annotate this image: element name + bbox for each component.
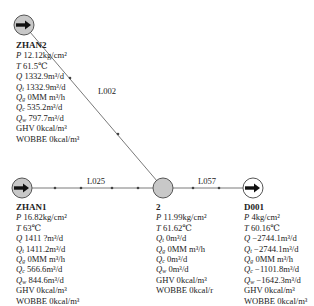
- node-property-row: Qt 0m³/d: [156, 233, 213, 243]
- property-value: 844.6m³/d: [28, 275, 63, 285]
- node-property-row: Qc −1101.8m³/d: [244, 264, 307, 274]
- node-info-d001: D001 P 4kg/cm²T 60.16℃Q −2744.1m³/dQt −2…: [244, 202, 307, 306]
- property-value: 0MM m³/h: [27, 92, 65, 102]
- property-value: WOBBE 0kcal/m³: [244, 296, 307, 306]
- property-value: 1332.9m³/d: [26, 82, 66, 92]
- node-property-row: Qw −1642.3m³/d: [244, 275, 307, 285]
- property-value: 63℃: [23, 223, 41, 233]
- node-name: ZHAN2: [16, 40, 79, 50]
- node-property-row: Q 1411 ?m³/d: [16, 233, 79, 243]
- property-value: −1101.8m³/d: [255, 264, 299, 274]
- property-value: 0m³/d: [168, 264, 188, 274]
- node-property-row: T 61.5℃: [16, 61, 79, 71]
- node-property-row: Qc 0m³/d: [156, 254, 213, 264]
- node-property-row: Qw 844.6m³/d: [16, 275, 79, 285]
- node-property-row: Qg 0MM m³/h: [16, 92, 79, 102]
- node-info-zhan2: ZHAN2 P 12.12kg/cm²T 61.5℃Q 1332.9m³/dQt…: [16, 40, 79, 144]
- property-value: WOBBE 0kcal/m³: [16, 134, 79, 144]
- property-value: 0m³/d: [167, 254, 187, 264]
- node-property-row: WOBBE 0kcal/m³: [16, 134, 79, 144]
- property-value: 61.5℃: [23, 61, 48, 71]
- node-property-row: Qw 797.7m³/d: [16, 113, 79, 123]
- node-name: D001: [244, 202, 307, 212]
- node-property-row: P 12.12kg/cm²: [16, 50, 79, 60]
- node-property-row: Qg 0MM m³/h: [16, 254, 79, 264]
- node-property-row: GHV 0kcal/m³: [244, 285, 307, 295]
- property-value: WOBBE 0kcal/r: [156, 285, 213, 295]
- property-value: −2744.1m³/d: [252, 233, 296, 243]
- node-property-row: P 4kg/cm²: [244, 212, 307, 222]
- node-property-row: T 63℃: [16, 223, 79, 233]
- node-property-row: WOBBE 0kcal/r: [156, 285, 213, 295]
- property-value: 60.16℃: [251, 223, 280, 233]
- property-value: 11.99kg/cm²: [163, 212, 206, 222]
- node-name: ZHAN1: [16, 202, 79, 212]
- node-property-row: Q 1332.9m³/d: [16, 71, 79, 81]
- property-value: 566.6m³/d: [27, 264, 62, 274]
- property-value: 12.12kg/cm²: [23, 50, 66, 60]
- property-value: −2744.1m³/d: [254, 244, 298, 254]
- property-value: 1411 ?m³/d: [24, 233, 63, 243]
- node-property-row: WOBBE 0kcal/m³: [244, 296, 307, 306]
- node-info-2: 2 P 11.99kg/cm²T 61.62℃Qt 0m³/dQg 0MM m³…: [156, 202, 213, 296]
- property-value: 1411.2m³/d: [26, 244, 65, 254]
- property-value: 0MM m³/h: [167, 244, 205, 254]
- property-value: 535.2m³/d: [27, 102, 62, 112]
- node-property-row: GHV 0kcal/m³: [16, 123, 79, 133]
- pipe-l057[interactable]: [172, 187, 243, 190]
- node-property-row: WOBBE 0kcal/m³: [16, 296, 79, 306]
- node-property-row: T 60.16℃: [244, 223, 307, 233]
- node-name: 2: [156, 202, 213, 212]
- pipe-l025[interactable]: [32, 187, 154, 190]
- sink-arrow-icon[interactable]: [243, 178, 263, 198]
- property-value: 1332.9m³/d: [24, 71, 64, 81]
- property-value: GHV 0kcal/m³: [16, 285, 67, 295]
- property-value: 16.82kg/cm²: [23, 212, 66, 222]
- node-property-row: Qg 0MM m³/h: [156, 244, 213, 254]
- pipe-label-l057: L057: [198, 176, 216, 186]
- pipe-label-l002: L002: [98, 86, 116, 96]
- node-property-row: GHV 0kcal/m³: [156, 275, 213, 285]
- node-property-row: Qc 535.2m³/d: [16, 102, 79, 112]
- property-value: 0MM m³/h: [27, 254, 65, 264]
- property-value: 0m³/d: [166, 233, 186, 243]
- node-property-row: Qc 566.6m³/d: [16, 264, 79, 274]
- property-value: 797.7m³/d: [28, 113, 63, 123]
- node-property-row: T 61.62℃: [156, 223, 213, 233]
- property-value: 4kg/cm²: [251, 212, 279, 222]
- junction-node-icon[interactable]: [153, 178, 173, 198]
- source-arrow-icon[interactable]: [12, 178, 32, 198]
- property-value: GHV 0kcal/m³: [244, 285, 295, 295]
- node-property-row: Qt 1332.9m³/d: [16, 82, 79, 92]
- property-value: WOBBE 0kcal/m³: [16, 296, 79, 306]
- property-value: GHV 0kcal/m³: [16, 123, 67, 133]
- property-value: 0MM m³/h: [255, 254, 293, 264]
- node-property-row: GHV 0kcal/m³: [16, 285, 79, 295]
- property-value: 61.62℃: [163, 223, 192, 233]
- node-property-row: Qt −2744.1m³/d: [244, 244, 307, 254]
- node-property-row: Q −2744.1m³/d: [244, 233, 307, 243]
- source-arrow-icon[interactable]: [14, 15, 34, 35]
- node-property-row: Qt 1411.2m³/d: [16, 244, 79, 254]
- node-property-row: Qg 0MM m³/h: [244, 254, 307, 264]
- property-value: −1642.3m³/d: [256, 275, 300, 285]
- property-value: GHV 0kcal/m³: [156, 275, 207, 285]
- node-property-row: Qw 0m³/d: [156, 264, 213, 274]
- node-property-row: P 16.82kg/cm²: [16, 212, 79, 222]
- node-info-zhan1: ZHAN1 P 16.82kg/cm²T 63℃Q 1411 ?m³/dQt 1…: [16, 202, 79, 306]
- pipe-label-l025: L025: [87, 176, 105, 186]
- node-property-row: P 11.99kg/cm²: [156, 212, 213, 222]
